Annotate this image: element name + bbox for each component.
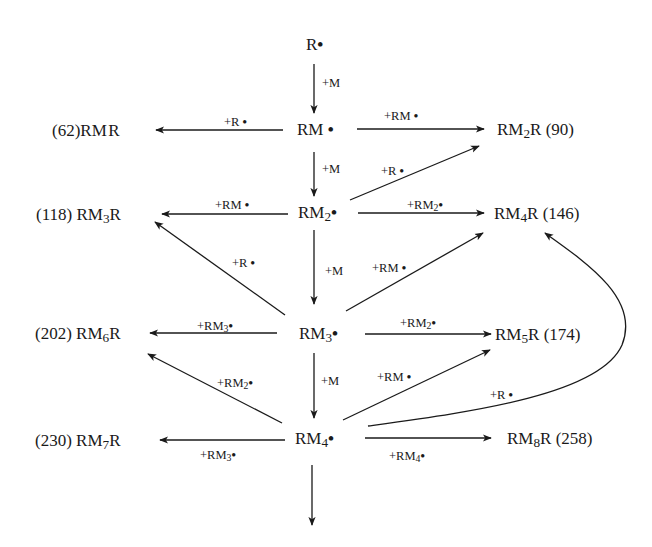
- label-text: +RM: [400, 316, 427, 330]
- node-text: RM: [298, 203, 324, 222]
- arrow-rm3-to-rm4r: [346, 233, 483, 311]
- product-text: R: [110, 205, 121, 224]
- radical-dot: •: [332, 324, 338, 343]
- edge-label-rm2-rm3r: +RM •: [215, 199, 249, 212]
- label-text: +RM: [389, 449, 416, 463]
- label-text: +RM: [372, 261, 399, 275]
- node-text: RM: [295, 429, 321, 448]
- node-r-radical: R•: [306, 36, 323, 53]
- label-text: +RM: [215, 198, 242, 212]
- label-text: +RM: [384, 109, 411, 123]
- subscript: 3: [103, 211, 110, 226]
- radical-dot: •: [317, 35, 323, 54]
- node-rm1: RM •: [297, 121, 334, 138]
- radical-polymerization-diagram: R• RM • RM2• RM3• RM4• (62)RM R RM2R (90…: [0, 0, 652, 547]
- product-rm7r: (230) RM7R: [35, 432, 121, 452]
- edge-label-rm1-rmr: +R •: [224, 116, 247, 129]
- edge-label-m3: +M: [325, 265, 343, 278]
- edge-label-rm3-rm5r: +RM2•: [400, 317, 436, 331]
- radical-dot: •: [231, 448, 235, 462]
- product-rm2r: RM2R (90): [497, 121, 574, 141]
- arrow-rm4-to-rm6r: [148, 354, 282, 423]
- molecular-weight: (258): [556, 429, 593, 448]
- radical-dot: •: [328, 429, 334, 448]
- product-rmr: (62)RM R: [52, 122, 120, 139]
- radical-dot: •: [407, 370, 411, 384]
- node-rm3: RM3•: [299, 325, 338, 345]
- product-text: R: [109, 431, 120, 450]
- product-text: R: [540, 429, 551, 448]
- edge-label-rm4-rm8r: +RM4•: [389, 450, 425, 464]
- edge-label-rm3-rm6r: +RM3•: [197, 320, 233, 334]
- radical-dot: •: [402, 261, 406, 275]
- edge-label-m1: +M: [322, 77, 340, 90]
- product-text: R: [528, 325, 539, 344]
- arrow-rm3-to-rm3r: [155, 222, 285, 315]
- product-text: RM: [494, 204, 520, 223]
- label-text: +RM: [197, 319, 224, 333]
- label-text: +RM: [377, 370, 404, 384]
- radical-dot: •: [251, 256, 255, 270]
- radical-dot: •: [438, 198, 442, 212]
- node-rm4: RM4•: [295, 430, 334, 450]
- label-text: +RM: [217, 376, 244, 390]
- edge-label-rm2-rm4r: +RM2•: [407, 199, 443, 213]
- edge-label-rm4-rm7r: +RM3•: [200, 449, 236, 463]
- radical-dot: •: [400, 164, 404, 178]
- molecular-weight: (202): [35, 324, 72, 343]
- radical-dot: •: [431, 316, 435, 330]
- label-text: +R: [224, 115, 239, 129]
- product-text: RM: [76, 324, 102, 343]
- product-rm3r: (118) RM3R: [36, 206, 121, 226]
- product-text: R: [108, 121, 119, 140]
- radical-dot: •: [248, 376, 252, 390]
- molecular-weight: (118): [36, 205, 72, 224]
- product-text: RM: [80, 121, 106, 140]
- product-rm8r: RM8R (258): [507, 430, 593, 450]
- product-rm5r: RM5R (174): [495, 326, 581, 346]
- product-text: RM: [497, 120, 523, 139]
- edge-label-m4: +M: [321, 375, 339, 388]
- node-text: RM: [297, 120, 323, 139]
- molecular-weight: (230): [35, 431, 72, 450]
- edge-label-rm3-rm3r: +R •: [232, 257, 255, 270]
- product-text: R: [530, 120, 541, 139]
- radical-dot: •: [243, 115, 247, 129]
- label-text: +R: [490, 388, 505, 402]
- radical-dot: •: [414, 109, 418, 123]
- molecular-weight: (174): [544, 325, 581, 344]
- edge-label-rm3-rm4r: +RM •: [372, 262, 406, 275]
- product-text: R: [109, 324, 120, 343]
- edge-label-rm4-rm4r: +R •: [490, 389, 513, 402]
- product-text: RM: [507, 429, 533, 448]
- node-text: R: [306, 35, 317, 54]
- radical-dot: •: [228, 319, 232, 333]
- molecular-weight: (90): [546, 120, 574, 139]
- label-text: +RM: [200, 448, 227, 462]
- radical-dot: •: [245, 198, 249, 212]
- molecular-weight: (62): [52, 121, 80, 140]
- product-rm6r: (202) RM6R: [35, 325, 121, 345]
- product-text: RM: [495, 325, 521, 344]
- radical-dot: •: [509, 388, 513, 402]
- radical-dot: •: [328, 120, 334, 139]
- arrow-rm4-to-rm5r: [343, 350, 490, 420]
- arrow-rm2-to-rm2r: [350, 146, 479, 200]
- label-text: +R: [381, 164, 396, 178]
- label-text: +RM: [407, 198, 434, 212]
- label-text: +R: [232, 256, 247, 270]
- molecular-weight: (146): [543, 204, 580, 223]
- edge-label-rm4-rm6r: +RM2•: [217, 377, 253, 391]
- edge-label-rm1-rm2r: +RM •: [384, 110, 418, 123]
- radical-dot: •: [331, 203, 337, 222]
- node-text: RM: [299, 324, 325, 343]
- product-text: RM: [76, 431, 102, 450]
- product-text: R: [527, 204, 538, 223]
- product-rm4r: RM4R (146): [494, 205, 580, 225]
- product-text: RM: [76, 205, 102, 224]
- edge-label-m2: +M: [322, 163, 340, 176]
- edge-label-rm4-rm5r: +RM •: [377, 371, 411, 384]
- node-rm2: RM2•: [298, 204, 337, 224]
- edge-label-rm2-rm2r: +R •: [381, 165, 404, 178]
- radical-dot: •: [420, 449, 424, 463]
